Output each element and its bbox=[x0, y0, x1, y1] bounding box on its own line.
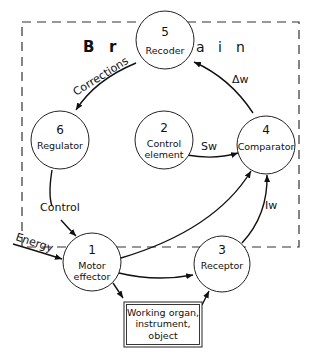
working-organ-box: Working organ, instrument, object bbox=[124, 302, 202, 347]
node-receptor: 3 Receptor bbox=[194, 236, 250, 292]
svg-text:a: a bbox=[196, 39, 205, 55]
svg-text:Receptor: Receptor bbox=[201, 260, 244, 271]
svg-text:B: B bbox=[83, 38, 94, 56]
edge-label-iw: Iw bbox=[265, 199, 277, 212]
edge-box-to-receptor bbox=[202, 291, 209, 305]
edge-comparator-to-recoder bbox=[194, 62, 253, 113]
svg-text:4: 4 bbox=[262, 123, 270, 137]
node-recoder: 5 Recoder bbox=[136, 11, 194, 69]
svg-text:Comparator: Comparator bbox=[238, 141, 295, 152]
node-motor-effector: 1 Motor effector bbox=[63, 233, 121, 291]
svg-text:i: i bbox=[218, 39, 222, 55]
svg-text:Recoder: Recoder bbox=[146, 45, 185, 56]
svg-text:r: r bbox=[109, 38, 117, 56]
svg-text:object: object bbox=[148, 330, 178, 341]
svg-text:n: n bbox=[236, 39, 245, 55]
svg-text:Control: Control bbox=[147, 138, 181, 149]
svg-text:5: 5 bbox=[161, 25, 169, 39]
svg-text:2: 2 bbox=[160, 121, 168, 135]
svg-text:effector: effector bbox=[74, 271, 111, 282]
edge-receptor-to-comparator bbox=[242, 175, 267, 243]
diagram-canvas: B r a i n Corrections Δw Sw Control Ener… bbox=[0, 0, 315, 362]
node-regulator: 6 Regulator bbox=[31, 111, 89, 169]
edge-label-control: Control bbox=[40, 201, 80, 214]
svg-text:element: element bbox=[144, 149, 183, 160]
svg-text:Regulator: Regulator bbox=[37, 140, 83, 151]
node-control-element: 2 Control element bbox=[135, 111, 193, 169]
edge-label-energy: Energy bbox=[14, 230, 55, 254]
node-comparator: 4 Comparator bbox=[237, 116, 295, 174]
svg-text:6: 6 bbox=[56, 123, 64, 137]
edge-label-corrections: Corrections bbox=[71, 54, 131, 98]
svg-text:instrument,: instrument, bbox=[135, 318, 190, 329]
edge-control-element-to-comparator bbox=[187, 153, 238, 157]
svg-text:1: 1 bbox=[88, 243, 96, 257]
svg-text:3: 3 bbox=[218, 243, 226, 257]
edge-control-to-motor-effector bbox=[61, 220, 76, 236]
edge-motor-effector-to-receptor bbox=[119, 273, 193, 278]
svg-text:Motor: Motor bbox=[78, 260, 106, 271]
edge-motor-effector-to-box bbox=[113, 283, 123, 298]
svg-text:Working organ,: Working organ, bbox=[127, 307, 199, 318]
edge-label-delta-w: Δw bbox=[232, 73, 249, 86]
edge-label-sw: Sw bbox=[201, 140, 217, 153]
